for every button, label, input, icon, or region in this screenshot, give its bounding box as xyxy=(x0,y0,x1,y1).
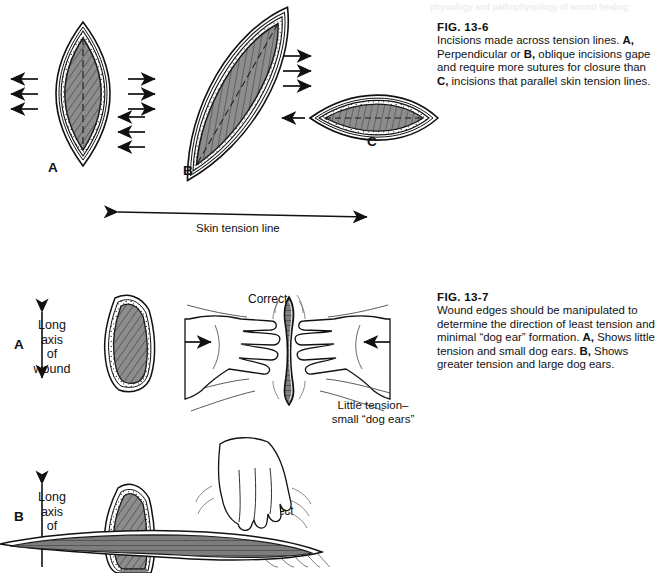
panel-a-wound-vertical xyxy=(11,22,155,166)
skin-tension-line-arrow xyxy=(118,212,367,217)
fig-13-6-illustration xyxy=(0,8,430,258)
axis-line-1: Long xyxy=(24,318,80,333)
axis-line-2: axis xyxy=(24,333,80,348)
figure-13-6-number: FIG. 13-6 xyxy=(437,20,655,33)
panel-label-a-137: A xyxy=(14,337,24,352)
panel-a-result-label: Little tension– small “dog ears” xyxy=(318,399,428,426)
result-line-2: small “dog ears” xyxy=(318,413,428,427)
panel-b-arrows-right xyxy=(283,56,311,86)
panel-c-wound-horizontal xyxy=(282,95,438,140)
figure-13-7-caption-text: Wound edges should be manipulated to det… xyxy=(437,304,655,370)
panel-label-b-137: B xyxy=(14,509,24,524)
figure-13-6-caption-text: Incisions made across tension lines. A, … xyxy=(437,34,650,86)
figure-13-7-number: FIG. 13-7 xyxy=(437,290,655,303)
axis-b-line-2: axis xyxy=(24,505,80,520)
panel-b-hand-illustration xyxy=(196,440,406,567)
cut-off-running-header: physiology and pathophysiology of wound … xyxy=(430,2,660,12)
panel-a-wound-shape xyxy=(85,290,195,400)
panel-label-c-136: C xyxy=(367,134,377,149)
panel-label-b-136: B xyxy=(183,163,193,178)
result-line-1: Little tension– xyxy=(318,399,428,413)
closed-wound-center xyxy=(284,297,293,405)
axis-line-3: of xyxy=(24,347,80,362)
panel-label-a-136: A xyxy=(48,160,58,175)
figure-13-6-caption: FIG. 13-6 Incisions made across tension … xyxy=(437,20,655,88)
panel-a-axis-label: Long axis of wound xyxy=(24,318,80,376)
panel-b-arrows-left xyxy=(118,117,145,147)
axis-b-line-1: Long xyxy=(24,490,80,505)
axis-b-line-3: of xyxy=(24,519,80,534)
axis-line-4: wound xyxy=(24,362,80,377)
panel-a-arrows-right xyxy=(128,79,155,109)
skin-tension-line-label: Skin tension line xyxy=(196,222,280,234)
panel-a-arrows-left xyxy=(11,79,38,109)
figure-13-7-caption: FIG. 13-7 Wound edges should be manipula… xyxy=(437,290,655,371)
